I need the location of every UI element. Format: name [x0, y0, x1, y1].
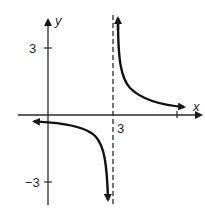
- curve-right-branch: [118, 20, 184, 107]
- rational-function-graph: y x 3 −3 3: [0, 0, 205, 211]
- y-axis-label: y: [54, 13, 63, 28]
- y-tick-label-neg3: −3: [25, 175, 40, 190]
- curve-left-branch: [48, 122, 108, 200]
- x-axis-label: x: [192, 99, 200, 114]
- y-tick-label-3: 3: [29, 41, 36, 56]
- curve-left-arrow-stem: [34, 121, 48, 122]
- x-tick-label-3: 3: [117, 121, 124, 136]
